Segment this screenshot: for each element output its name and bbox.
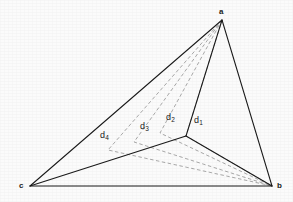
vertex-label-c: c <box>19 182 23 190</box>
dashed-path-d2 <box>160 20 272 186</box>
dashed-path-d3 <box>134 20 272 186</box>
edge-a-j <box>186 20 222 136</box>
path-label-d3: d3 <box>140 122 149 131</box>
vertex-label-b: b <box>277 182 282 190</box>
path-label-d3-subscript: 3 <box>145 125 149 132</box>
figure-canvas <box>0 0 293 202</box>
path-label-d2: d2 <box>166 113 175 122</box>
path-label-d4: d4 <box>100 131 109 140</box>
path-label-d1: d1 <box>194 116 203 125</box>
solid-edge-group <box>30 20 272 186</box>
vertex-label-a: a <box>219 8 223 16</box>
path-label-d4-subscript: 4 <box>105 134 109 141</box>
path-label-d1-subscript: 1 <box>199 119 203 126</box>
path-label-d2-subscript: 2 <box>171 116 175 123</box>
geometric-figure: a b c d1 d2 d3 d4 <box>0 0 293 202</box>
edge-c-j <box>30 136 186 186</box>
